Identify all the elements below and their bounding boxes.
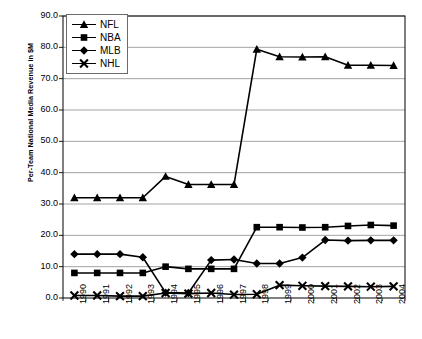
legend-marker-square-icon bbox=[71, 32, 97, 43]
data-point-marker bbox=[253, 45, 261, 53]
data-point-marker bbox=[162, 263, 169, 270]
data-point-marker bbox=[368, 222, 375, 229]
chart-container: Per-Team National Media Revenue in $M 0.… bbox=[0, 0, 422, 339]
data-point-marker bbox=[93, 250, 101, 258]
x-tick-label: 1996 bbox=[216, 284, 225, 304]
data-point-marker bbox=[80, 20, 88, 28]
x-tick-label: 2001 bbox=[330, 284, 339, 304]
x-tick-label: 2000 bbox=[307, 284, 316, 304]
legend-item-nfl[interactable]: NFL bbox=[71, 18, 121, 31]
x-tick-label: 1995 bbox=[193, 284, 202, 304]
data-point-marker bbox=[390, 222, 397, 229]
data-point-marker bbox=[94, 270, 101, 277]
data-point-marker bbox=[116, 250, 124, 258]
legend-item-mlb[interactable]: MLB bbox=[71, 44, 121, 57]
series-nhl bbox=[71, 281, 398, 300]
data-point-marker bbox=[161, 172, 169, 180]
data-point-marker bbox=[71, 270, 78, 277]
data-point-marker bbox=[81, 34, 88, 41]
legend-marker-diamond-icon bbox=[71, 45, 97, 56]
x-tick-label: 1999 bbox=[284, 284, 293, 304]
legend-label: MLB bbox=[97, 45, 121, 56]
legend-label: NFL bbox=[97, 19, 119, 30]
chart-legend: NFLNBAMLBNHL bbox=[66, 14, 128, 74]
data-point-marker bbox=[389, 236, 397, 244]
data-point-marker bbox=[345, 223, 352, 230]
data-point-marker bbox=[231, 266, 238, 273]
legend-label: NBA bbox=[97, 32, 121, 43]
data-point-marker bbox=[344, 236, 352, 244]
data-point-marker bbox=[140, 270, 147, 277]
data-point-marker bbox=[299, 224, 306, 231]
data-point-marker bbox=[185, 266, 192, 273]
data-point-marker bbox=[117, 270, 124, 277]
data-point-marker bbox=[367, 236, 375, 244]
legend-marker-cross-icon bbox=[71, 58, 97, 69]
x-tick-label: 1998 bbox=[261, 284, 270, 304]
x-tick-label: 1991 bbox=[102, 284, 111, 304]
series-nba bbox=[71, 222, 397, 277]
data-point-marker bbox=[208, 266, 215, 273]
data-point-marker bbox=[322, 224, 329, 231]
data-point-marker bbox=[80, 46, 88, 54]
x-tick-label: 1994 bbox=[170, 284, 179, 304]
x-tick-label: 2002 bbox=[353, 284, 362, 304]
data-point-marker bbox=[254, 224, 261, 231]
x-tick-label: 2004 bbox=[398, 284, 407, 304]
data-point-marker bbox=[139, 253, 147, 261]
data-point-marker bbox=[276, 224, 283, 231]
data-point-marker bbox=[80, 60, 88, 68]
legend-item-nba[interactable]: NBA bbox=[71, 31, 121, 44]
x-tick-label: 1997 bbox=[239, 284, 248, 304]
x-tick-label: 1993 bbox=[147, 284, 156, 304]
x-tick-label: 1992 bbox=[125, 284, 134, 304]
x-tick-label: 2003 bbox=[375, 284, 384, 304]
legend-marker-triangle-icon bbox=[71, 19, 97, 30]
legend-item-nhl[interactable]: NHL bbox=[71, 57, 121, 70]
legend-label: NHL bbox=[97, 58, 120, 69]
x-tick-label: 1990 bbox=[79, 284, 88, 304]
data-point-marker bbox=[70, 250, 78, 258]
